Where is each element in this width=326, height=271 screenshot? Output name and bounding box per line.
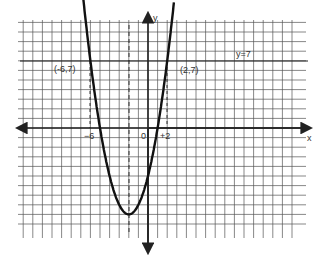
line-label: y=7	[236, 49, 251, 59]
grid	[18, 20, 306, 238]
point-label-left: (-6,7)	[54, 64, 76, 74]
tick-label-pos2: +2	[160, 131, 170, 141]
y-axis-label: y	[153, 13, 158, 23]
tick-label-0: 0	[141, 131, 146, 141]
graph: y x (-6,7) (2,7) y=7 −6 0 +2	[0, 0, 326, 271]
point-label-right: (2,7)	[180, 65, 199, 75]
x-axis-label: x	[307, 133, 312, 143]
tick-label-neg6: −6	[84, 131, 94, 141]
